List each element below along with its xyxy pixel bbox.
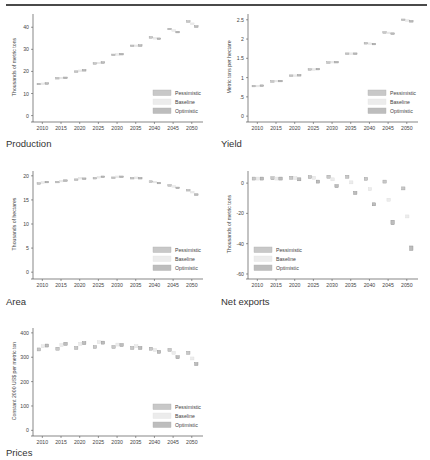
- data-point-optimistic: [260, 85, 264, 87]
- data-point-optimistic: [372, 43, 376, 45]
- data-point-pessimistic: [149, 37, 153, 39]
- x-tick-label: 2045: [167, 282, 179, 288]
- chart-net-exports: 0-20-40-60Thousands of metric tons201020…: [215, 165, 430, 295]
- data-point-pessimistic: [168, 28, 172, 30]
- data-point-optimistic: [194, 194, 198, 196]
- y-tick-label: 1.5: [237, 55, 244, 61]
- data-point-optimistic: [138, 45, 142, 47]
- y-axis-label: Thousands of metric tons: [11, 37, 17, 96]
- data-point-optimistic: [195, 363, 198, 366]
- data-point-baseline: [350, 181, 353, 184]
- data-point-baseline: [275, 177, 278, 180]
- data-point-baseline: [60, 77, 64, 79]
- y-tick-label: 2: [241, 36, 244, 42]
- chart-panel-yield: 0.511.522.5Metric tons per hectare201020…: [215, 8, 430, 138]
- y-tick-label: 0: [26, 427, 29, 433]
- legend-swatch-optimistic: [368, 108, 386, 114]
- x-tick-label: 2015: [270, 282, 282, 288]
- data-point-baseline: [97, 62, 101, 64]
- legend-label: Optimistic: [175, 108, 198, 114]
- legend-swatch-optimistic: [153, 422, 171, 428]
- data-point-optimistic: [353, 53, 357, 55]
- data-point-baseline: [116, 176, 120, 178]
- x-tick-label: 2020: [289, 125, 301, 131]
- x-tick-label: 2025: [308, 282, 320, 288]
- data-point-baseline: [349, 53, 353, 55]
- legend-label: Baseline: [390, 99, 410, 105]
- data-point-baseline: [60, 180, 64, 182]
- y-tick-label: -40: [237, 241, 245, 247]
- data-point-pessimistic: [345, 53, 349, 55]
- y-axis-label: Metric tons per hectare: [226, 40, 232, 93]
- data-point-baseline: [78, 177, 82, 179]
- y-tick-label: 30: [23, 46, 29, 52]
- x-tick-label: 2035: [130, 125, 142, 131]
- data-point-baseline: [405, 20, 409, 22]
- data-point-optimistic: [260, 177, 263, 180]
- legend-swatch-baseline: [153, 99, 171, 105]
- data-point-optimistic: [176, 187, 180, 189]
- x-tick-label: 2020: [74, 282, 86, 288]
- data-point-optimistic: [101, 341, 104, 344]
- caption-production: Production: [6, 138, 51, 149]
- y-tick-label: 10: [23, 221, 29, 227]
- data-point-pessimistic: [308, 176, 311, 179]
- data-point-baseline: [406, 215, 409, 218]
- legend-label: Optimistic: [276, 265, 299, 271]
- data-point-pessimistic: [37, 183, 41, 185]
- header-rule: [6, 4, 427, 6]
- legend-label: Baseline: [276, 256, 296, 262]
- y-tick-label: 0: [241, 113, 244, 119]
- data-point-baseline: [256, 177, 259, 180]
- legend-swatch-baseline: [254, 256, 272, 262]
- chart-panel-prices: 0100200300400Constant 2000 US$ per metri…: [0, 322, 215, 452]
- x-tick-label: 2040: [149, 439, 161, 445]
- legend-label: Baseline: [175, 99, 195, 105]
- data-point-optimistic: [316, 68, 320, 70]
- y-tick-label: 0: [26, 269, 29, 275]
- data-point-pessimistic: [168, 348, 171, 351]
- y-tick-label: .5: [240, 94, 244, 100]
- x-tick-label: 2015: [270, 125, 282, 131]
- data-point-pessimistic: [186, 21, 190, 23]
- data-point-baseline: [78, 70, 82, 72]
- data-point-optimistic: [82, 178, 86, 180]
- y-tick-label: -60: [237, 271, 245, 277]
- x-tick-label: 2010: [37, 125, 49, 131]
- data-point-baseline: [135, 345, 138, 348]
- x-tick-label: 2030: [111, 439, 123, 445]
- data-point-pessimistic: [383, 32, 387, 34]
- data-point-optimistic: [391, 220, 394, 225]
- data-point-optimistic: [64, 342, 67, 345]
- data-point-pessimistic: [364, 42, 368, 44]
- legend-label: Optimistic: [390, 108, 413, 114]
- data-point-baseline: [116, 54, 120, 56]
- data-point-pessimistic: [112, 346, 115, 349]
- x-tick-label: 2040: [149, 282, 161, 288]
- data-point-baseline: [293, 75, 297, 77]
- data-point-baseline: [387, 32, 391, 34]
- x-tick-label: 2030: [111, 125, 123, 131]
- y-tick-label: 20: [23, 173, 29, 179]
- x-tick-label: 2015: [55, 125, 67, 131]
- legend-label: Optimistic: [175, 422, 198, 428]
- data-point-pessimistic: [308, 69, 312, 71]
- data-point-optimistic: [157, 182, 161, 184]
- x-tick-label: 2045: [167, 125, 179, 131]
- x-tick-label: 2010: [37, 282, 49, 288]
- x-tick-label: 2025: [308, 125, 320, 131]
- data-point-pessimistic: [112, 54, 116, 56]
- data-point-baseline: [41, 83, 45, 85]
- data-point-pessimistic: [75, 346, 78, 349]
- data-point-optimistic: [372, 203, 375, 206]
- data-point-pessimistic: [130, 45, 134, 47]
- data-point-baseline: [368, 43, 372, 45]
- data-point-pessimistic: [56, 347, 59, 350]
- data-point-optimistic: [335, 61, 339, 63]
- caption-yield: Yield: [221, 138, 242, 149]
- data-point-baseline: [153, 181, 157, 183]
- data-point-pessimistic: [364, 177, 367, 180]
- data-point-pessimistic: [131, 346, 134, 349]
- data-point-baseline: [368, 188, 371, 191]
- legend-swatch-pessimistic: [153, 247, 171, 253]
